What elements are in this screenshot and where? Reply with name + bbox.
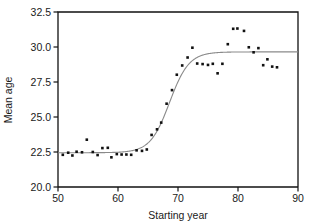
data-point [165, 102, 168, 105]
data-point [130, 154, 133, 157]
data-point [201, 63, 204, 66]
data-point [191, 46, 194, 49]
data-point [266, 58, 269, 61]
data-point [221, 63, 224, 66]
y-tick-label: 27.5 [31, 76, 52, 88]
data-point [96, 154, 99, 157]
y-tick-label: 30.0 [31, 41, 52, 53]
data-point [86, 138, 89, 141]
data-point [248, 46, 251, 49]
data-point [81, 151, 84, 154]
data-point [150, 134, 153, 137]
x-tick-label: 50 [52, 192, 64, 204]
x-axis-label: Starting year [148, 209, 208, 221]
scatter-plot-svg: 5060708090 20.022.525.027.530.032.5 Star… [0, 0, 312, 224]
data-point [176, 73, 179, 76]
data-point [75, 150, 78, 153]
x-tick-label: 60 [112, 192, 124, 204]
data-point [71, 154, 74, 157]
data-point [227, 43, 230, 46]
data-point [232, 28, 235, 31]
data-point [171, 89, 174, 92]
data-point [125, 153, 128, 156]
data-point [276, 66, 279, 69]
data-point [186, 56, 189, 59]
x-tick-label: 70 [172, 192, 184, 204]
data-point [257, 47, 260, 50]
data-point [135, 149, 138, 152]
data-point [207, 64, 210, 67]
data-point [216, 72, 219, 75]
data-point [146, 148, 149, 151]
data-point [92, 151, 95, 154]
y-tick-label: 32.5 [31, 6, 52, 18]
data-point [156, 128, 159, 131]
data-point [243, 30, 246, 33]
data-point [62, 154, 65, 157]
data-point [236, 27, 239, 30]
data-point [196, 62, 199, 65]
data-point [212, 63, 215, 66]
data-point [67, 151, 70, 154]
x-tick-label: 90 [292, 192, 304, 204]
y-tick-label: 22.5 [31, 146, 52, 158]
data-point [120, 153, 123, 156]
y-axis-label: Mean age [2, 76, 14, 123]
data-point [252, 51, 255, 54]
data-point [116, 153, 119, 156]
data-point [110, 156, 113, 159]
x-tick-label: 80 [232, 192, 244, 204]
data-point [107, 147, 110, 150]
y-tick-label: 25.0 [31, 111, 52, 123]
y-tick-label: 20.0 [31, 181, 52, 193]
data-point [160, 121, 163, 124]
data-point [262, 64, 265, 67]
data-point [101, 147, 104, 150]
data-point [181, 64, 184, 67]
data-point [271, 65, 274, 68]
chart-figure: 5060708090 20.022.525.027.530.032.5 Star… [0, 0, 312, 224]
data-point [141, 150, 144, 153]
